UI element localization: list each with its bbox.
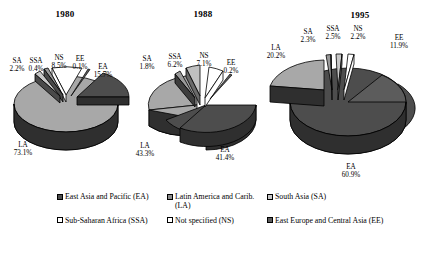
slice-label-sa-1995: SA 2.3%	[296, 28, 320, 44]
legend-label-la: Latin America and Carib. (LA)	[175, 192, 267, 211]
chart-canvas: 1980	[0, 0, 431, 257]
pie-title-1980: 1980	[40, 9, 90, 19]
legend-item-ee: East Europe and Central Asia (EE)	[267, 216, 387, 225]
slice-label-ee-1988: EE 0.2%	[219, 59, 243, 75]
legend-item-ea: East Asia and Pacific (EA)	[57, 192, 167, 211]
slice-label-ea-1980: EA 15.7%	[90, 63, 116, 79]
legend-item-ssa: Sub-Saharan Africa (SSA)	[57, 216, 167, 225]
legend-label-ea: East Asia and Pacific (EA)	[65, 192, 149, 201]
slice-label-ssa-1995: SSA 2.5%	[320, 25, 346, 41]
slice-label-ea-1995: EA 60.9%	[338, 163, 364, 179]
legend-label-ee: East Europe and Central Asia (EE)	[275, 216, 383, 225]
legend-item-la: Latin America and Carib. (LA)	[167, 192, 267, 211]
legend-label-sa: South Asia (SA)	[275, 192, 326, 201]
slice-label-ssa-1988: SSA 6.2%	[162, 53, 188, 69]
legend-label-ns: Not specified (NS)	[175, 216, 234, 225]
pie-chart-1995: 1995	[262, 0, 431, 190]
slice-label-ea-1988: EA 41.4%	[212, 146, 238, 162]
slice-label-ee-1995: EE 11.9%	[386, 34, 412, 50]
chart-legend: East Asia and Pacific (EA) Latin America…	[57, 192, 387, 225]
slice-label-la-1980: LA 73.1%	[10, 141, 36, 157]
slice-label-ee-1980: EE 0.1%	[69, 55, 91, 71]
slice-label-ssa-1980: SSA 0.4%	[25, 57, 47, 73]
legend-item-ns: Not specified (NS)	[167, 216, 267, 225]
slice-label-la-1995: LA 20.2%	[262, 44, 290, 60]
slice-label-la-1988: LA 43.3%	[132, 142, 158, 158]
pie-chart-1988: 1988	[130, 0, 280, 185]
legend-item-sa: South Asia (SA)	[267, 192, 387, 211]
legend-swatch-ea	[57, 194, 63, 200]
legend-swatch-ns	[167, 217, 173, 223]
slice-label-ns-1988: NS 7.1%	[192, 52, 216, 68]
pie-chart-1980: 1980	[0, 0, 145, 185]
slice-label-ns-1980: NS 8.5%	[48, 54, 70, 70]
slice-label-ns-1995: NS 2.2%	[346, 25, 370, 41]
legend-swatch-ee	[267, 217, 273, 223]
slice-label-sa-1988: SA 1.8%	[135, 55, 159, 71]
legend-swatch-sa	[267, 194, 273, 200]
legend-swatch-ssa	[57, 217, 63, 223]
legend-label-ssa: Sub-Saharan Africa (SSA)	[65, 216, 148, 225]
pie-title-1988: 1988	[178, 9, 228, 19]
legend-swatch-la	[167, 194, 173, 200]
pie-title-1995: 1995	[340, 10, 380, 20]
